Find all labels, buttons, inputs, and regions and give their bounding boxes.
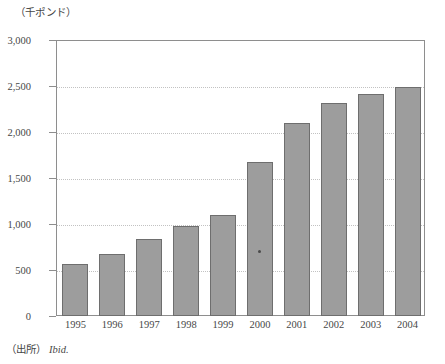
x-axis-tick-label: 2001 bbox=[286, 319, 307, 330]
x-axis-tick-label: 1995 bbox=[65, 319, 86, 330]
bar-1998 bbox=[173, 226, 199, 316]
x-axis-tick-label: 1998 bbox=[176, 319, 197, 330]
y-axis-tick-label: 0 bbox=[26, 311, 31, 322]
source-prefix: （出所） bbox=[6, 344, 46, 355]
bar-1996 bbox=[99, 254, 125, 316]
x-axis-labels: 1995199619971998199920002001200220032004 bbox=[56, 319, 425, 335]
y-axis-tick-label: 3,000 bbox=[7, 35, 31, 46]
x-axis-tick-label: 1996 bbox=[102, 319, 123, 330]
bar-1995 bbox=[62, 264, 88, 316]
bar-1997 bbox=[136, 239, 162, 316]
bar-2004 bbox=[395, 87, 421, 316]
bar-1999 bbox=[210, 215, 236, 316]
x-axis-tick-label: 2002 bbox=[323, 319, 344, 330]
x-axis-tick-label: 2004 bbox=[397, 319, 418, 330]
x-axis-tick-label: 1999 bbox=[213, 319, 234, 330]
bars-layer bbox=[56, 40, 425, 316]
x-axis-tick-label: 2000 bbox=[249, 319, 270, 330]
y-axis-tick-label: 500 bbox=[15, 265, 31, 276]
bar-chart-figure: （千ポンド） 05001,0001,5002,0002,5003,000 199… bbox=[0, 0, 445, 364]
source-note: （出所）Ibid. bbox=[6, 341, 69, 356]
source-value: Ibid. bbox=[49, 344, 69, 355]
bar-2001 bbox=[284, 123, 310, 316]
bar-2000 bbox=[247, 162, 273, 316]
y-axis-tick-label: 1,000 bbox=[7, 219, 31, 230]
bar-2003 bbox=[358, 94, 384, 316]
x-axis-tick-label: 2003 bbox=[360, 319, 381, 330]
y-axis-tick-label: 2,500 bbox=[7, 81, 31, 92]
y-axis-labels: 05001,0001,5002,0002,5003,000 bbox=[0, 0, 56, 364]
y-axis-tick-label: 1,500 bbox=[7, 173, 31, 184]
bar-2002 bbox=[321, 103, 347, 316]
x-axis-tick-label: 1997 bbox=[139, 319, 160, 330]
y-axis-tick-label: 2,000 bbox=[7, 127, 31, 138]
